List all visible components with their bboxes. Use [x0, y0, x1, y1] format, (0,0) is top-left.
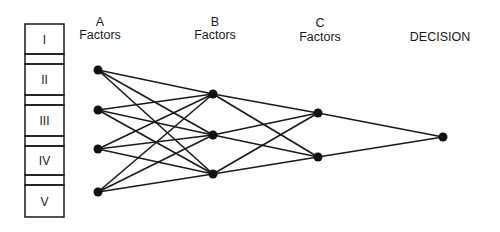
level-box-spacer [25, 54, 64, 64]
b-node [209, 90, 218, 99]
level-box-spacer [25, 175, 64, 185]
a-node [94, 145, 103, 154]
level-label-iii: III [39, 114, 49, 128]
network-nodes [94, 66, 448, 197]
decision-network-diagram: I II III IV V A Factors B Factors C Fact… [0, 0, 500, 232]
a-factors-word: Factors [79, 28, 121, 42]
level-box-spacer [25, 95, 64, 105]
level-box-spacer [25, 136, 64, 146]
network-edges [98, 70, 443, 192]
decision-node [439, 133, 448, 142]
b-factors-letter: B [211, 15, 219, 29]
level-label-i: I [43, 33, 46, 47]
b-factors-word: Factors [194, 28, 236, 42]
a-factors-letter: A [96, 15, 105, 29]
a-node [94, 66, 103, 75]
decision-label: DECISION [410, 30, 470, 44]
c-node [314, 109, 323, 118]
level-label-ii: II [41, 73, 48, 87]
level-label-iv: IV [39, 154, 50, 168]
level-label-v: V [40, 195, 48, 209]
a-node [94, 188, 103, 197]
b-node [209, 131, 218, 140]
c-factors-word: Factors [299, 30, 341, 44]
c-node [314, 153, 323, 162]
b-node [209, 170, 218, 179]
a-node [94, 106, 103, 115]
c-factors-letter: C [315, 16, 324, 30]
